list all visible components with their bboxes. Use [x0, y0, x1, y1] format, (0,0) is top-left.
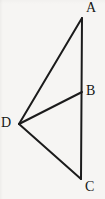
- geometry-canvas: [0, 0, 105, 199]
- segment-c-d: [19, 124, 81, 179]
- vertex-label-b: B: [86, 84, 95, 98]
- geometry-figure: A B C D: [0, 0, 105, 199]
- vertex-label-d: D: [1, 116, 11, 130]
- vertex-label-a: A: [86, 1, 96, 15]
- segment-a-c: [81, 18, 82, 179]
- vertex-label-c: C: [85, 180, 94, 194]
